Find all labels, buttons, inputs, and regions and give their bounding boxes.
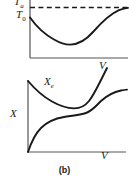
bottom-chart (28, 68, 127, 152)
bottom-chart-xe-upper-curve (28, 68, 107, 108)
xe-subscript: e (51, 82, 54, 90)
xe-symbol: X (44, 75, 51, 87)
top-chart-t0-label: T0 (16, 9, 26, 23)
bottom-chart-y-axis-label: X (10, 108, 17, 119)
figure-panel-b: Ta T0 V Xe X V (b) (0, 0, 129, 185)
figure-graphics (0, 0, 129, 185)
t0-subscript: 0 (22, 15, 26, 23)
bottom-chart-xe-label: Xe (44, 76, 54, 90)
top-chart (30, 0, 128, 58)
top-chart-temperature-curve (30, 8, 128, 45)
figure-caption: (b) (0, 166, 129, 175)
top-chart-x-axis-label: V (99, 60, 106, 71)
bottom-chart-x-lower-curve (28, 90, 127, 152)
bottom-chart-x-axis-label: V (101, 150, 108, 161)
